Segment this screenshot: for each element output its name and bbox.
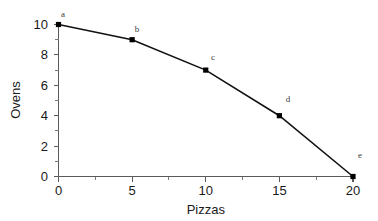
data-point-e-marker[interactable] bbox=[350, 174, 355, 179]
x-tick-label-10: 10 bbox=[199, 183, 213, 198]
data-point-b-label: b bbox=[135, 24, 140, 34]
y-tick-label-6: 6 bbox=[41, 78, 48, 93]
y-axis-title: Ovens bbox=[8, 81, 23, 119]
x-tick-label-15: 15 bbox=[272, 183, 286, 198]
data-point-a-label: a bbox=[61, 9, 65, 19]
chart-container: 0 2 4 6 8 10 0 5 10 15 20 Pizzas Ovens a… bbox=[0, 0, 378, 221]
data-point-d-label: d bbox=[286, 94, 291, 104]
line-chart: 0 2 4 6 8 10 0 5 10 15 20 Pizzas Ovens a… bbox=[0, 0, 378, 221]
x-tick-label-0: 0 bbox=[55, 183, 62, 198]
data-point-d-marker[interactable] bbox=[277, 113, 282, 118]
data-point-a-marker[interactable] bbox=[56, 22, 61, 27]
data-point-e-label: e bbox=[358, 150, 362, 160]
x-tick-label-20: 20 bbox=[346, 183, 360, 198]
y-tick-label-0: 0 bbox=[41, 169, 48, 184]
y-tick-label-2: 2 bbox=[41, 139, 48, 154]
x-axis-title: Pizzas bbox=[187, 202, 226, 217]
x-tick-label-5: 5 bbox=[128, 183, 135, 198]
y-tick-label-10: 10 bbox=[34, 17, 48, 32]
y-tick-label-8: 8 bbox=[41, 47, 48, 62]
data-point-b-marker[interactable] bbox=[130, 37, 135, 42]
data-point-c-marker[interactable] bbox=[203, 68, 208, 73]
data-point-c-label: c bbox=[211, 52, 215, 62]
y-tick-label-4: 4 bbox=[41, 108, 48, 123]
